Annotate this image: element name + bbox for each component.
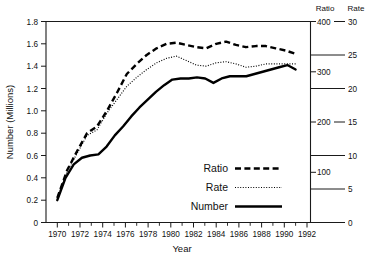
y-axis-title: Number (Millions) <box>4 85 15 159</box>
x-tick-label-8: 1986 <box>230 230 249 239</box>
x-tick-label-1: 1972 <box>71 230 90 239</box>
chart-svg: 1.8 1.6 1.4 1.2 1.0 0.8 0.6 0.4 0.2 0 Nu… <box>0 0 378 262</box>
ratio-tick-label-1: 100 <box>317 168 331 177</box>
x-axis-title: Year <box>172 243 191 254</box>
y-axis-left-ticks: 1.8 1.6 1.4 1.2 1.0 0.8 0.6 0.4 0.2 0 <box>27 18 46 228</box>
y-tick-label-left-6: 1.2 <box>27 85 39 94</box>
rate-tick-label-1: 5 <box>348 185 353 194</box>
rate-tick-label-4: 20 <box>348 85 358 94</box>
x-tick-label-5: 1980 <box>162 230 181 239</box>
rate-tick-label-6: 30 <box>348 18 358 27</box>
y-tick-label-left-9: 1.8 <box>27 18 39 27</box>
x-tick-label-0: 1970 <box>48 230 67 239</box>
x-tick-label-6: 1982 <box>184 230 203 239</box>
y-tick-label-left-5: 1.0 <box>27 107 39 116</box>
rate-tick-label-3: 15 <box>348 118 358 127</box>
x-tick-label-7: 1984 <box>207 230 226 239</box>
y-tick-label-left-8: 1.6 <box>27 40 39 49</box>
y-tick-label-left-2: 0.4 <box>27 174 39 183</box>
rate-axis-header: Rate <box>348 4 365 13</box>
rate-tick-label-2: 10 <box>348 152 358 161</box>
rate-tick-label-0: 0 <box>348 219 353 228</box>
x-tick-label-3: 1976 <box>116 230 135 239</box>
y-tick-label-left-1: 0.2 <box>27 196 39 205</box>
ratio-tick-label-2: 200 <box>317 118 331 127</box>
chart-figure: 1.8 1.6 1.4 1.2 1.0 0.8 0.6 0.4 0.2 0 Nu… <box>0 0 378 262</box>
legend-label-ratio: Ratio <box>203 162 228 174</box>
ratio-axis-header: Ratio <box>316 4 335 13</box>
series-line-rate <box>57 56 295 198</box>
rate-axis: Rate 30 25 20 15 10 5 0 <box>311 4 365 228</box>
x-axis-tick-labels: 1970 1972 1974 1976 1978 1980 1982 1984 … <box>48 230 316 239</box>
legend-label-rate: Rate <box>206 181 228 193</box>
axis-frame <box>46 22 311 223</box>
x-tick-label-10: 1990 <box>275 230 294 239</box>
x-tick-label-4: 1978 <box>139 230 158 239</box>
y-tick-label-left-4: 0.8 <box>27 129 39 138</box>
legend-label-number: Number <box>191 200 229 212</box>
x-tick-label-2: 1974 <box>94 230 113 239</box>
series-line-ratio <box>57 42 295 198</box>
y-tick-label-left-7: 1.4 <box>27 62 39 71</box>
rate-tick-label-5: 25 <box>348 51 358 60</box>
x-tick-label-9: 1988 <box>252 230 271 239</box>
legend: Ratio Rate Number <box>191 162 282 212</box>
ratio-axis: Ratio 400 300 200 100 <box>311 4 335 223</box>
data-series-group <box>57 42 295 201</box>
y-tick-label-left-3: 0.6 <box>27 152 39 161</box>
x-tick-label-11: 1992 <box>298 230 317 239</box>
y-tick-label-left-0: 0 <box>33 219 38 228</box>
ratio-tick-label-4: 400 <box>317 18 331 27</box>
ratio-tick-label-3: 300 <box>317 68 331 77</box>
